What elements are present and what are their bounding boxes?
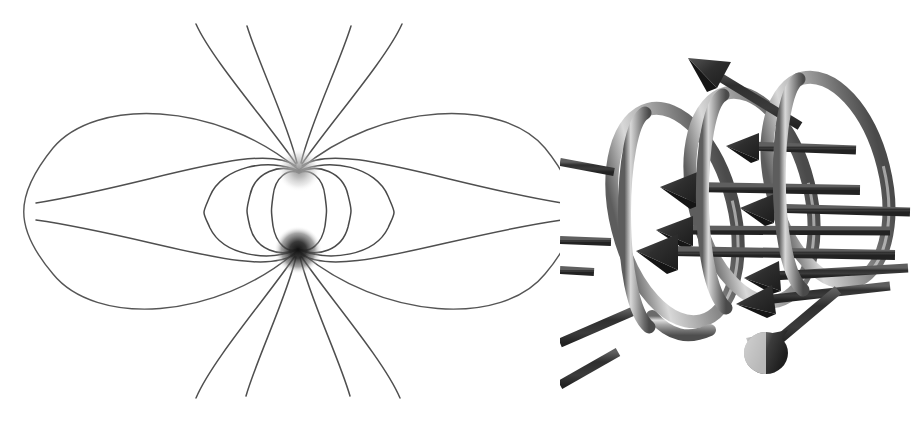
radial-line-north-left-outer xyxy=(196,24,296,164)
figure-root xyxy=(0,0,913,423)
radial-line-north-right-inner xyxy=(301,26,351,163)
radial-line-north-right-outer xyxy=(302,24,402,164)
dipole-field-loops-left xyxy=(24,114,299,310)
panel-solenoid xyxy=(560,0,913,423)
field-arrow-stub-3 xyxy=(560,270,594,272)
radial-line-south-left-inner xyxy=(246,257,296,396)
radial-line-north-left-inner xyxy=(247,26,297,163)
pole-south-marker xyxy=(274,226,322,274)
radial-line-south-right-inner xyxy=(300,257,350,396)
radial-line-south-left-outer xyxy=(196,256,295,398)
coil-turn-1 xyxy=(591,95,758,335)
dipole-field-loops-right xyxy=(298,114,574,310)
field-arrow-stub-4 xyxy=(560,310,636,343)
pole-north-marker xyxy=(277,148,321,192)
field-arrow-stub-1 xyxy=(560,162,614,172)
field-line-loop-right-1 xyxy=(298,114,574,310)
field-arrow-stub-5 xyxy=(560,352,618,385)
field-arrow-stub-2 xyxy=(560,240,611,242)
field-line-loop-left-1 xyxy=(24,114,299,310)
coil-turn-3 xyxy=(747,64,908,295)
radial-line-south-right-outer xyxy=(301,256,400,398)
panel-magnetic-dipole xyxy=(0,0,600,423)
